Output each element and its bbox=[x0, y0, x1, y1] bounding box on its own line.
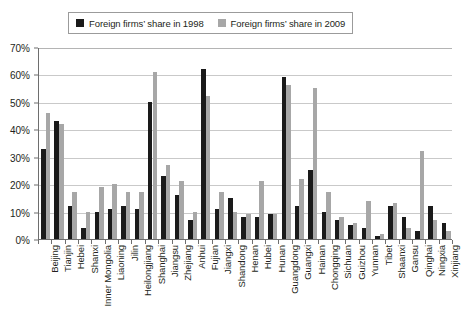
bar-2009 bbox=[206, 96, 211, 239]
x-axis-tick bbox=[252, 240, 253, 244]
bar-group bbox=[266, 48, 279, 239]
bar-group bbox=[132, 48, 145, 239]
x-axis-tick-label: Inner Mongolia bbox=[102, 245, 113, 306]
x-axis-tick bbox=[38, 240, 39, 244]
bar-group bbox=[346, 48, 359, 239]
bar-group bbox=[39, 48, 52, 239]
x-axis-tick-label: Yunnan bbox=[369, 245, 380, 277]
x-axis-tick bbox=[105, 240, 106, 244]
bar-2009 bbox=[246, 214, 251, 239]
bar-2009 bbox=[233, 212, 238, 239]
bar-group bbox=[199, 48, 212, 239]
x-axis-tick-label: Shandong bbox=[236, 245, 247, 288]
bar-2009 bbox=[126, 192, 131, 239]
x-axis-labels: BeijingTianjinHebeiShanxiInner MongoliaL… bbox=[38, 245, 452, 334]
x-axis-tick bbox=[372, 240, 373, 244]
bar-group bbox=[119, 48, 132, 239]
x-axis-tick-label: Heilongjiang bbox=[142, 245, 153, 296]
x-axis-tick-label: Gansu bbox=[409, 245, 420, 273]
x-axis-tick-label: Anhui bbox=[196, 245, 207, 269]
x-axis-tick-label: Guizhou bbox=[356, 245, 367, 280]
x-axis-tick-label: Sichuan bbox=[342, 245, 353, 279]
x-axis-tick-label: Tibet bbox=[383, 245, 394, 265]
bar-2009 bbox=[380, 234, 385, 239]
bar-2009 bbox=[166, 165, 171, 239]
bar-2009 bbox=[46, 113, 51, 239]
bar-2009 bbox=[286, 85, 291, 239]
bar-2009 bbox=[353, 223, 358, 239]
x-axis-tick-label: Hunan bbox=[276, 245, 287, 273]
plot-area bbox=[38, 48, 452, 240]
bar-group bbox=[333, 48, 346, 239]
chart-legend: Foreign firms’ share in 1998 Foreign fir… bbox=[68, 12, 353, 34]
bar-2009 bbox=[393, 203, 398, 239]
x-axis-tick bbox=[65, 240, 66, 244]
y-axis-tick-label: 10% bbox=[10, 207, 30, 218]
x-axis-tick-label: Liaoning bbox=[115, 245, 126, 280]
x-axis-tick-label: Hubei bbox=[262, 245, 273, 269]
bar-2009 bbox=[72, 192, 77, 239]
x-axis-tick bbox=[385, 240, 386, 244]
x-axis-tick bbox=[399, 240, 400, 244]
bar-2009 bbox=[313, 88, 318, 239]
x-axis-tick bbox=[78, 240, 79, 244]
x-axis-tick-label: Guangxi bbox=[302, 245, 313, 280]
x-axis-tick-label: Jilin bbox=[129, 245, 140, 261]
square-swatch-dark-icon bbox=[76, 19, 84, 27]
bar-group bbox=[92, 48, 105, 239]
x-axis-tick-label: Jiangxi bbox=[222, 245, 233, 274]
x-axis-tick bbox=[131, 240, 132, 244]
bar-group bbox=[319, 48, 332, 239]
x-axis-tick bbox=[265, 240, 266, 244]
x-axis-tick bbox=[439, 240, 440, 244]
legend-label-1998: Foreign firms’ share in 1998 bbox=[89, 18, 204, 29]
bar-group bbox=[146, 48, 159, 239]
x-axis-tick-label: Jiangsu bbox=[169, 245, 180, 277]
bar-series-container bbox=[39, 48, 452, 239]
x-axis-tick bbox=[91, 240, 92, 244]
y-axis-tick-label: 30% bbox=[10, 152, 30, 163]
bar-2009 bbox=[420, 151, 425, 239]
bar-group bbox=[213, 48, 226, 239]
bar-2009 bbox=[153, 72, 158, 239]
bar-group bbox=[293, 48, 306, 239]
legend-label-2009: Foreign firms’ share in 2009 bbox=[231, 18, 346, 29]
bar-group bbox=[400, 48, 413, 239]
x-axis-tick bbox=[145, 240, 146, 244]
legend-item-2009: Foreign firms’ share in 2009 bbox=[218, 18, 346, 29]
x-axis-tick-label: Ningxia bbox=[436, 245, 447, 276]
bar-2009 bbox=[86, 212, 91, 239]
x-axis-tick bbox=[359, 240, 360, 244]
bar-group bbox=[239, 48, 252, 239]
x-axis-tick-label: Tianjin bbox=[62, 245, 73, 272]
bar-group bbox=[226, 48, 239, 239]
x-axis-tick bbox=[118, 240, 119, 244]
y-axis: 0%10%20%30%40%50%60%70% bbox=[0, 40, 36, 248]
bar-group bbox=[279, 48, 292, 239]
x-axis-tick-label: Shaanxi bbox=[396, 245, 407, 279]
x-axis-tick bbox=[305, 240, 306, 244]
bar-group bbox=[159, 48, 172, 239]
bar-group bbox=[386, 48, 399, 239]
y-axis-tick-label: 50% bbox=[10, 97, 30, 108]
bar-group bbox=[52, 48, 65, 239]
x-axis-tick-label: Fujian bbox=[209, 245, 220, 270]
bar-2009 bbox=[179, 181, 184, 239]
x-axis-tick bbox=[332, 240, 333, 244]
bar-2009 bbox=[446, 231, 451, 239]
bar-2009 bbox=[59, 124, 64, 239]
x-axis-tick bbox=[238, 240, 239, 244]
y-axis-tick-label: 40% bbox=[10, 125, 30, 136]
bar-group bbox=[79, 48, 92, 239]
square-swatch-gray-icon bbox=[218, 19, 226, 27]
x-axis-tick-label: Guangdong bbox=[289, 245, 300, 294]
bar-2009 bbox=[99, 187, 104, 239]
y-axis-tick-label: 70% bbox=[10, 43, 30, 54]
x-axis-tick bbox=[185, 240, 186, 244]
bar-group bbox=[173, 48, 186, 239]
bar-2009 bbox=[259, 181, 264, 239]
bar-2009 bbox=[299, 179, 304, 239]
y-axis-tick-label: 0% bbox=[16, 235, 30, 246]
x-axis-tick bbox=[212, 240, 213, 244]
bar-group bbox=[413, 48, 426, 239]
